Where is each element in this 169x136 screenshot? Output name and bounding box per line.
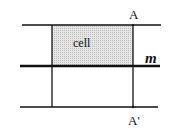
diagram-svg: [0, 0, 169, 136]
diagram-canvas: A cell m A': [0, 0, 169, 136]
point-a-prime-label: A': [128, 114, 140, 127]
point-a-label: A: [129, 8, 138, 21]
point-a-prime-marker: [132, 106, 134, 108]
cell-label: cell: [73, 37, 90, 49]
cell-shaded-region: [52, 25, 133, 66]
mirror-line-label: m: [145, 51, 157, 66]
point-a-marker: [132, 24, 134, 26]
